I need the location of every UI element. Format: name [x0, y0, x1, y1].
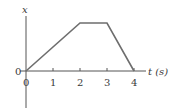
- x-tick-label: 1: [50, 77, 56, 88]
- x-tick-label: 2: [77, 77, 83, 88]
- x-tick-label: 3: [104, 77, 110, 88]
- x-tick-label: 0: [23, 77, 29, 88]
- position-time-graph: x 0 t (s) 0 1 2 3 4: [0, 0, 178, 112]
- data-line: [26, 23, 134, 71]
- y-origin-label: 0: [15, 66, 21, 77]
- y-axis-label: x: [22, 4, 28, 15]
- x-tick-labels: 0 1 2 3 4: [23, 77, 137, 88]
- x-axis-label: t (s): [148, 66, 168, 77]
- x-tick-label: 4: [131, 77, 137, 88]
